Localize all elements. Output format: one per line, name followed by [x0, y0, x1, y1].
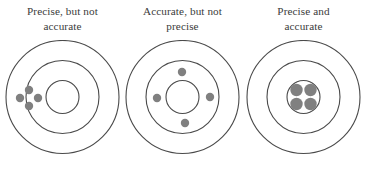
shot-dot: [304, 84, 316, 96]
shot-dot: [178, 68, 186, 76]
target-rings-and-dots: [243, 40, 364, 166]
shot-dot: [153, 94, 161, 102]
target-caption: Precise and accurate: [243, 4, 364, 33]
target-rings-and-dots: [2, 40, 123, 166]
shot-dot: [181, 119, 189, 127]
shot-dot: [25, 102, 33, 110]
shot-dot: [16, 94, 24, 102]
inner-ring: [166, 81, 199, 114]
outer-ring: [247, 41, 360, 154]
shot-dot: [290, 84, 302, 96]
shot-dot: [290, 98, 302, 110]
middle-ring: [267, 61, 340, 134]
target-group-accurate-not-precise: Accurate, but not precise: [122, 0, 243, 169]
outer-ring: [126, 41, 239, 154]
accuracy-precision-diagram: Precise, but not accurate Accurate, but …: [0, 0, 365, 169]
shot-dot: [25, 86, 33, 94]
caption-line-1: Precise and: [243, 4, 364, 19]
caption-line-2: precise: [122, 19, 243, 34]
target-rings-and-dots: [122, 40, 243, 166]
target-caption: Accurate, but not precise: [122, 4, 243, 33]
caption-line-1: Precise, but not: [2, 4, 123, 19]
target-group-precise-and-accurate: Precise and accurate: [243, 0, 364, 169]
caption-line-2: accurate: [243, 19, 364, 34]
shot-dot: [206, 93, 214, 101]
shot-dot: [34, 94, 42, 102]
caption-line-2: accurate: [2, 19, 123, 34]
caption-line-1: Accurate, but not: [122, 4, 243, 19]
shot-dot: [304, 98, 316, 110]
target-caption: Precise, but not accurate: [2, 4, 123, 33]
inner-ring: [287, 81, 320, 114]
inner-ring: [46, 81, 79, 114]
target-group-precise-not-accurate: Precise, but not accurate: [2, 0, 123, 169]
